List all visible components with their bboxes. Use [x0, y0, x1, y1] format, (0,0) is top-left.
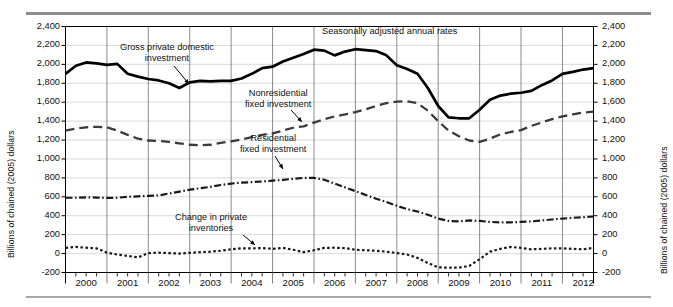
- annotation-line: fixed investment: [240, 144, 306, 155]
- figure-container: Billions of chained (2005) dollars Billi…: [0, 0, 673, 307]
- annotation-line: Residential: [240, 133, 306, 144]
- annotation-residential-fixed-investment: Residentialfixed investment: [240, 133, 306, 154]
- annotation-line: Nonresidential: [245, 88, 311, 99]
- series-line-change-in-private-inventories: [66, 247, 594, 268]
- annotation-gross-private-domestic-investment: Gross private domesticinvestment: [120, 42, 214, 63]
- annotation-line: Gross private domestic: [120, 42, 214, 53]
- annotation-nonresidential-fixed-investment: Nonresidentialfixed investment: [245, 88, 311, 109]
- chart-note: Seasonally adjusted annual rates: [322, 26, 457, 37]
- plot-frame: [66, 27, 594, 273]
- annotation-line: inventories: [175, 223, 247, 234]
- annotation-line: investment: [120, 53, 214, 64]
- chart-plot: [0, 0, 673, 307]
- series-line-nonresidential-fixed-investment: [66, 101, 594, 145]
- annotation-change-in-private-inventories: Change in privateinventories: [175, 212, 247, 233]
- annotation-line: fixed investment: [245, 99, 311, 110]
- annotation-line: Change in private: [175, 212, 247, 223]
